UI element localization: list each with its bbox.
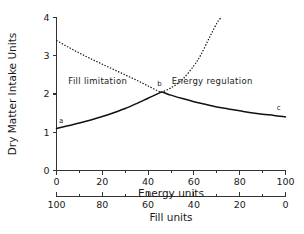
- y-axis-tick-label: 1: [43, 127, 49, 138]
- secondary-x-axis-tick-label: 80: [96, 199, 108, 210]
- y-axis-tick-label: 4: [43, 12, 49, 23]
- y-axis-tick-label: 2: [43, 88, 49, 99]
- x-axis-tick-label: 80: [234, 176, 246, 187]
- x-axis-tick-label: 20: [96, 176, 108, 187]
- x-axis-tick-label: 0: [53, 176, 59, 187]
- chart-text-group: 01234Dry Matter Intake Units020406080100…: [6, 12, 295, 223]
- chart-figure: 01234Dry Matter Intake Units020406080100…: [0, 0, 304, 234]
- secondary-x-axis-tick-label: 0: [282, 199, 288, 210]
- x-axis-tick-label: 60: [188, 176, 200, 187]
- x-axis-title: Energy units: [138, 187, 204, 199]
- y-axis-tick-label: 3: [43, 50, 49, 61]
- y-axis-tick-label: 0: [43, 165, 49, 176]
- region-label-fill-limitation: Fill limitation: [68, 76, 127, 86]
- secondary-x-axis-title: Fill units: [149, 211, 192, 223]
- region-label-energy-regulation: Energy regulation: [172, 76, 253, 86]
- secondary-x-axis-tick-label: 20: [234, 199, 246, 210]
- axes-group: [53, 18, 286, 197]
- x-axis-tick-label: 40: [142, 176, 154, 187]
- secondary-x-axis-tick-label: 60: [142, 199, 154, 210]
- point-label-c: c: [277, 104, 281, 112]
- curves-group: [57, 18, 286, 129]
- x-axis-tick-label: 100: [276, 176, 294, 187]
- secondary-x-axis-tick-label: 100: [47, 199, 65, 210]
- point-label-b: b: [157, 80, 162, 88]
- y-axis-title: Dry Matter Intake Units: [6, 33, 18, 155]
- chart-plot-area: 01234Dry Matter Intake Units020406080100…: [0, 0, 304, 234]
- energy-regulation-curve: [57, 92, 286, 129]
- point-label-a: a: [59, 117, 63, 125]
- secondary-x-axis-tick-label: 40: [188, 199, 200, 210]
